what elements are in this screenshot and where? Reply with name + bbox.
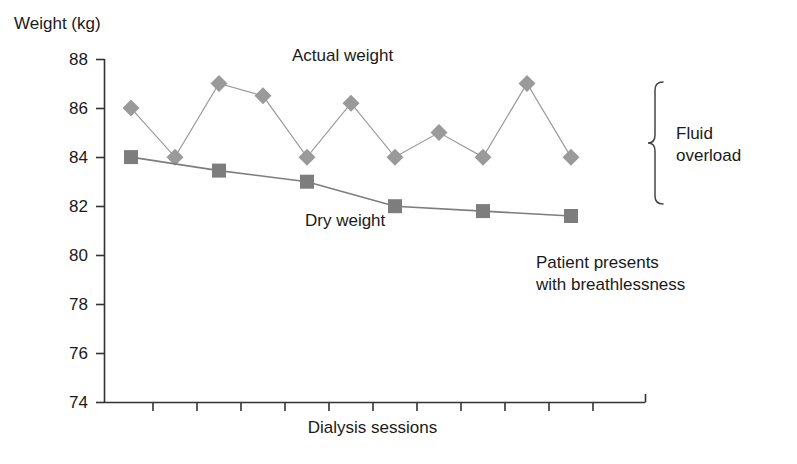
dry-weight-marker (476, 204, 490, 218)
fluid-overload-line1: Fluid (676, 123, 741, 145)
dry-weight-label: Dry weight (305, 210, 385, 232)
actual-weight-marker (343, 95, 360, 112)
dry-weight-marker (212, 164, 226, 178)
actual-weight-marker (431, 124, 448, 141)
dry-weight-marker (564, 209, 578, 223)
dry-weight-marker (300, 175, 314, 189)
breathlessness-line2: with breathlessness (536, 274, 685, 296)
weight-dialysis-chart: Weight (kg) Dialysis sessions 88 86 84 8… (0, 0, 797, 464)
series-line-square (131, 157, 571, 216)
dry-weight-marker (124, 150, 138, 164)
fluid-overload-brace (648, 82, 663, 204)
actual-weight-marker (255, 87, 272, 104)
series-line-diamond (131, 84, 571, 158)
dry-weight-marker (388, 199, 402, 213)
breathlessness-note: Patient presents with breathlessness (536, 252, 685, 296)
fluid-overload-label: Fluid overload (676, 123, 741, 167)
breathlessness-line1: Patient presents (536, 252, 685, 274)
actual-weight-marker (299, 149, 316, 166)
actual-weight-marker (211, 75, 228, 92)
fluid-overload-line2: overload (676, 145, 741, 167)
actual-weight-label: Actual weight (292, 45, 393, 67)
actual-weight-marker (387, 149, 404, 166)
y-axis (96, 59, 105, 403)
plot-area (0, 0, 797, 464)
actual-weight-marker (519, 75, 536, 92)
actual-weight-marker (563, 149, 580, 166)
x-axis (105, 394, 646, 411)
actual-weight-marker (475, 149, 492, 166)
data-series-layer (123, 75, 580, 223)
